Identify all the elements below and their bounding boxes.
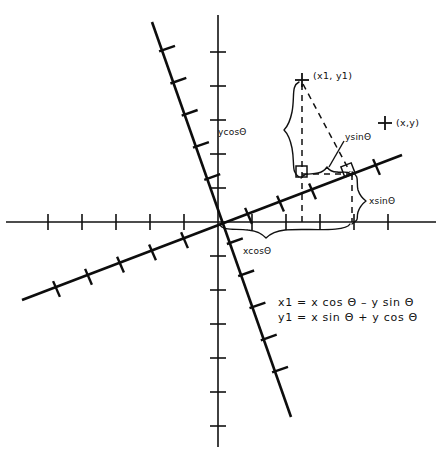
equation-x1: x1 = x cos Θ – y sin Θ: [278, 296, 414, 309]
rotation-diagram: (x1, y1) (x,y) ycosΘ ysinΘ xsinΘ xcosΘ x…: [0, 0, 441, 456]
point-x1y1-label: (x1, y1): [313, 70, 352, 81]
point-xy-label: (x,y): [396, 117, 419, 128]
equation-y1: y1 = x sin Θ + y cos Θ: [278, 311, 418, 324]
ycos-label: ycosΘ: [218, 127, 247, 137]
canvas-background: [0, 0, 441, 456]
xcos-label: xcosΘ: [243, 246, 271, 256]
ysin-label: ysinΘ: [345, 132, 371, 142]
xsin-label: xsinΘ: [369, 196, 395, 206]
figure-canvas: (x1, y1) (x,y) ycosΘ ysinΘ xsinΘ xcosΘ x…: [0, 0, 441, 456]
